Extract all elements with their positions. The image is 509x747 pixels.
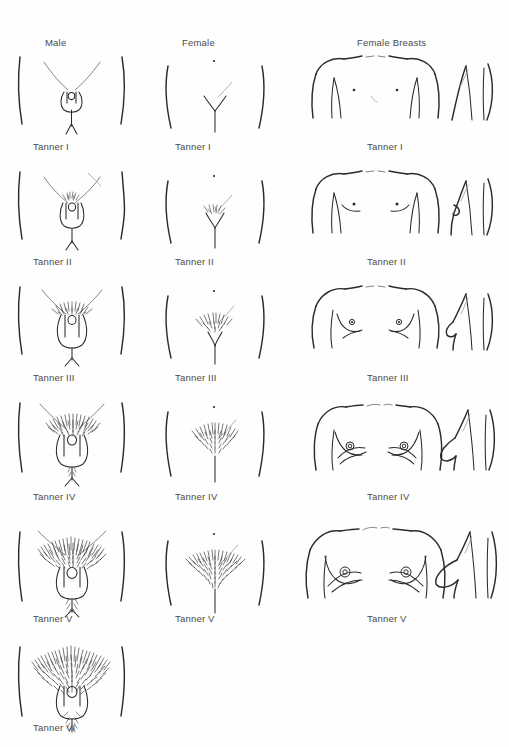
stage-label-male-1: Tanner I [33, 141, 69, 152]
stage-label-female-5: Tanner V [175, 613, 215, 624]
figure-female-tanner-5 [158, 527, 278, 617]
figure-male-tanner-5 [8, 527, 138, 617]
stage-label-breasts-2: Tanner II [367, 256, 406, 267]
stage-label-female-4: Tanner IV [175, 491, 217, 502]
figure-female-tanner-4 [158, 398, 278, 488]
column-header-female: Female [182, 37, 215, 48]
figure-male-tanner-2 [8, 167, 138, 252]
figure-male-tanner-4 [8, 398, 138, 488]
figure-male-tanner-6 [8, 642, 138, 732]
stage-label-male-3: Tanner III [33, 372, 75, 383]
stage-label-male-2: Tanner II [33, 256, 72, 267]
stage-label-breasts-4: Tanner IV [367, 491, 409, 502]
figure-female-tanner-1 [158, 52, 278, 137]
tanner-stage-chart: Male Female Female Breasts Tanner I [0, 0, 509, 747]
figure-breasts-tanner-4 [288, 398, 503, 483]
figure-breasts-tanner-3 [288, 280, 503, 362]
stage-label-breasts-1: Tanner I [367, 141, 403, 152]
figure-female-tanner-3 [158, 282, 278, 367]
figure-breasts-tanner-1 [288, 50, 503, 132]
stage-label-breasts-3: Tanner III [367, 372, 409, 383]
stage-label-female-2: Tanner II [175, 256, 214, 267]
stage-label-male-5: Tanner V [33, 613, 73, 624]
figure-breasts-tanner-2 [288, 165, 503, 247]
stage-label-female-3: Tanner III [175, 372, 217, 383]
figure-male-tanner-1 [8, 52, 138, 137]
stage-label-male-4: Tanner IV [33, 491, 75, 502]
column-header-female-breasts: Female Breasts [357, 37, 426, 48]
figure-breasts-tanner-5 [288, 520, 503, 610]
figure-female-tanner-2 [158, 167, 278, 252]
stage-label-female-1: Tanner I [175, 141, 211, 152]
figure-male-tanner-3 [8, 282, 138, 367]
stage-label-breasts-5: Tanner V [367, 613, 407, 624]
column-header-male: Male [45, 37, 66, 48]
stage-label-male-6: Tanner VI [33, 722, 75, 733]
